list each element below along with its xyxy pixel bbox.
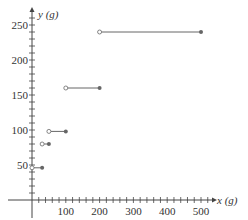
open-endpoint-icon (47, 129, 51, 133)
y-tick-label: 200 (12, 54, 29, 66)
x-axis-title: x (g) (216, 194, 238, 207)
step-segment (40, 142, 51, 146)
ticks: 10020030040050050100150200250 (12, 18, 210, 217)
x-tick-label: 100 (58, 205, 75, 217)
y-tick-label: 100 (12, 124, 29, 136)
closed-endpoint-icon (199, 30, 203, 34)
step-segment (98, 30, 203, 34)
x-tick-label: 200 (91, 205, 108, 217)
x-tick-label: 500 (193, 205, 210, 217)
y-axis-arrow-icon (30, 7, 35, 12)
closed-endpoint-icon (47, 142, 51, 146)
axes (8, 7, 217, 218)
step-segments (30, 30, 203, 170)
step-segment (30, 166, 44, 170)
step-chart: 10020030040050050100150200250 x (g) y (g… (0, 0, 248, 220)
closed-endpoint-icon (98, 86, 102, 90)
open-endpoint-icon (98, 30, 102, 34)
open-endpoint-icon (40, 142, 44, 146)
y-tick-label: 250 (12, 19, 29, 31)
y-tick-label: 50 (17, 159, 29, 171)
closed-endpoint-icon (40, 166, 44, 170)
step-segment (47, 129, 68, 133)
x-tick-label: 400 (159, 205, 176, 217)
closed-endpoint-icon (64, 129, 68, 133)
y-tick-label: 150 (12, 89, 29, 101)
step-segment (64, 86, 102, 90)
open-endpoint-icon (64, 86, 68, 90)
x-tick-label: 300 (125, 205, 142, 217)
y-axis-title: y (g) (37, 8, 59, 21)
open-endpoint-icon (30, 166, 34, 170)
